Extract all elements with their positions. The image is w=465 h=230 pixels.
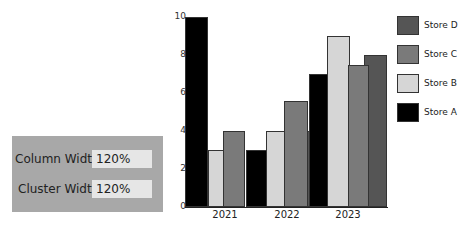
x-tick-label: 2022	[274, 209, 299, 220]
legend-swatch-icon	[397, 74, 419, 93]
legend-item-store-b[interactable]: Store B	[397, 73, 457, 93]
bar-store-b-2023[interactable]	[327, 36, 350, 207]
legend-label: Store D	[424, 20, 458, 30]
bar-store-c-2022[interactable]	[284, 101, 308, 207]
clustered-column-chart: 0246810 202120222023 Store DStore CStore…	[0, 0, 465, 230]
legend-label: Store A	[424, 107, 457, 117]
legend-label: Store B	[424, 78, 457, 88]
x-axis	[185, 207, 388, 208]
x-tick-label: 2021	[212, 209, 237, 220]
legend-item-store-c[interactable]: Store C	[397, 44, 457, 64]
legend-label: Store C	[424, 49, 457, 59]
legend-swatch-icon	[397, 45, 419, 64]
legend-item-store-d[interactable]: Store D	[397, 15, 458, 35]
x-tick-label: 2023	[335, 209, 360, 220]
legend-swatch-icon	[397, 103, 419, 122]
legend-swatch-icon	[397, 16, 419, 35]
legend-item-store-a[interactable]: Store A	[397, 102, 457, 122]
bar-store-c-2023[interactable]	[348, 65, 369, 208]
bar-store-c-2021[interactable]	[223, 131, 245, 207]
bar-store-a-2021[interactable]	[185, 17, 208, 207]
